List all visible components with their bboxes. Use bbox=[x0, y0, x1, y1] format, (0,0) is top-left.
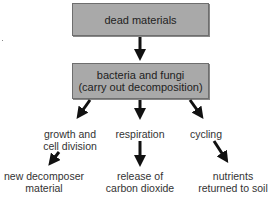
arrow-decomposers-to-cycling bbox=[190, 100, 200, 114]
new-material-node: new decomposer material bbox=[2, 170, 86, 194]
new-material-label-line2: material bbox=[2, 182, 86, 194]
respiration-node: respiration bbox=[110, 128, 170, 140]
arrow-growth-to-new-material bbox=[52, 152, 59, 161]
cycling-node: cycling bbox=[186, 128, 226, 140]
nutrients-node: nutrients returned to soil bbox=[196, 170, 270, 194]
arrow-cycling-to-nutrients bbox=[214, 141, 225, 158]
growth-label-line2: cell division bbox=[38, 140, 102, 152]
nutrients-label-line1: nutrients bbox=[196, 170, 270, 182]
growth-label-line1: growth and bbox=[38, 128, 102, 140]
arrow-decomposers-to-growth bbox=[80, 100, 90, 114]
cycling-label: cycling bbox=[186, 128, 226, 140]
growth-node: growth and cell division bbox=[38, 128, 102, 152]
new-material-label-line1: new decomposer bbox=[2, 170, 86, 182]
respiration-label: respiration bbox=[110, 128, 170, 140]
co2-label-line2: carbon dioxide bbox=[104, 182, 176, 194]
co2-label-line1: release of bbox=[104, 170, 176, 182]
nutrients-label-line2: returned to soil bbox=[196, 182, 270, 194]
co2-node: release of carbon dioxide bbox=[104, 170, 176, 194]
